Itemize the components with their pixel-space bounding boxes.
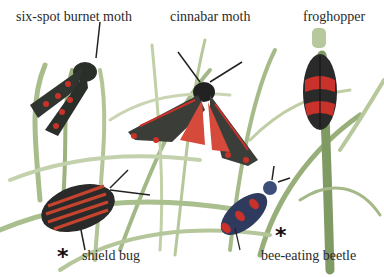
label-froghopper: froghopper [303, 9, 365, 25]
label-six-spot-burnet-moth: six-spot burnet moth [16, 9, 132, 25]
label-shield-bug: shield bug [82, 248, 140, 264]
asterisk-marker-bee-eating-beetle: * [275, 225, 287, 247]
grassland-insects-illustration [0, 0, 384, 277]
cinnabar-moth [128, 52, 258, 166]
label-cinnabar-moth: cinnabar moth [170, 9, 250, 25]
froghopper [303, 28, 337, 130]
asterisk-marker-shield-bug: * [57, 246, 69, 268]
illustration-canvas: six-spot burnet moth cinnabar moth frogh… [0, 0, 384, 277]
label-bee-eating-beetle: bee-eating beetle [261, 248, 356, 264]
